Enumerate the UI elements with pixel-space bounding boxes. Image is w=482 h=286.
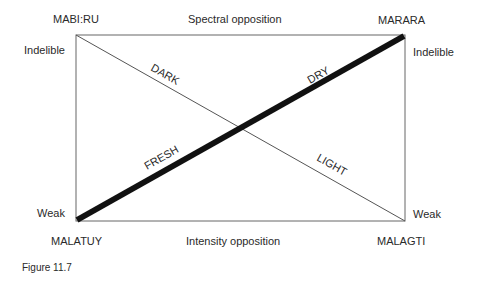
label-dark: DARK bbox=[149, 61, 182, 87]
side-right-bottom: Weak bbox=[413, 209, 441, 220]
label-light: LIGHT bbox=[315, 151, 349, 178]
side-right-top: Indelible bbox=[413, 47, 454, 58]
edge-top: Spectral opposition bbox=[188, 14, 282, 25]
corner-top-right: MARARA bbox=[378, 15, 425, 26]
corner-bottom-left: MALATUY bbox=[51, 236, 102, 247]
figure-caption: Figure 11.7 bbox=[22, 263, 72, 273]
corner-bottom-right: MALAGTI bbox=[377, 236, 425, 247]
edge-bottom: Intensity opposition bbox=[186, 236, 280, 247]
side-left-top: Indelible bbox=[24, 45, 65, 56]
side-left-bottom: Weak bbox=[37, 208, 65, 219]
corner-top-left: MABI:RU bbox=[53, 14, 99, 25]
